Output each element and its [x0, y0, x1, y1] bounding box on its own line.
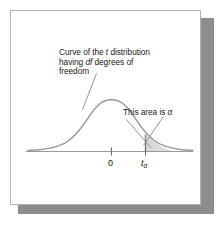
- annotation-curve-line2-suffix: degrees of: [92, 57, 133, 67]
- figure-panel: Curve of the t distribution having df de…: [10, 10, 201, 205]
- axis-label-critical-subscript: α: [144, 162, 148, 169]
- annotation-curve-line2-prefix: having: [59, 57, 85, 67]
- annotation-curve-line1-prefix: Curve of the: [59, 47, 106, 57]
- leader-line-area-note: [144, 117, 164, 146]
- t-distribution-plot: [11, 11, 202, 206]
- annotation-curve-line1-suffix: distribution: [108, 47, 150, 57]
- annotation-curve-note: Curve of the t distribution having df de…: [59, 48, 150, 77]
- annotation-area-text: This area is: [123, 107, 168, 117]
- axis-label-critical-value: tα: [141, 158, 147, 171]
- figure-container: Curve of the t distribution having df de…: [0, 0, 222, 232]
- leader-line-curve-note: [83, 74, 97, 110]
- symbol-alpha: α: [168, 107, 173, 117]
- axis-label-origin: 0: [108, 158, 113, 168]
- annotation-area-note: This area is α: [123, 108, 172, 118]
- annotation-curve-line3: freedom: [59, 67, 150, 77]
